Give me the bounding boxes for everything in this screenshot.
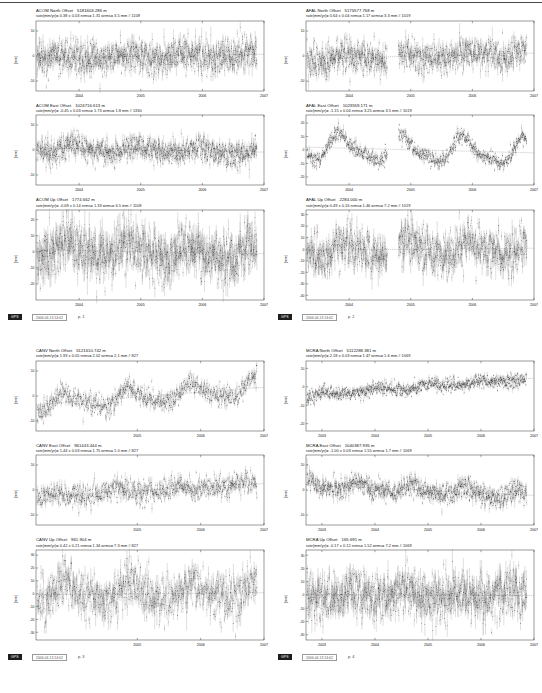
x-tick-label: 2007 [260,528,268,532]
x-tick-label: 2006 [197,434,205,438]
y-tick-label: 0 [303,489,305,493]
x-tick-label: 2006 [198,303,206,307]
x-tick-label: 2006 [468,188,476,192]
y-tick-label: -10 [300,162,305,166]
panel-title-text: ACOM East Offset [36,103,71,108]
data-points [37,27,257,88]
panel-offset-value: 961.904 m [71,537,91,542]
y-tick-label: -10 [300,514,305,518]
y-tick-label: 10 [31,464,35,468]
x-tick-label: 2006 [197,528,205,532]
plot-area-afal-east: (mm)20100-10-202004200520062007 [276,114,538,194]
plot-area-mcra-up: (mm)3020100-10-20-3020032004200520062007 [276,549,538,649]
x-tick-label: 2005 [424,643,432,647]
panel-offset-value: 961443.444 m [74,443,101,448]
y-tick-label: -10 [300,259,305,263]
panel-stats-afal-east: rate(mm/yr)= -1.15 ± 0.04 nrms= 3.25 wrm… [306,108,538,113]
timeseries-panel-mcra-up: MCRA Up Offset165.691 mrate(mm/yr)= -0.1… [276,537,538,649]
y-tick-label: 10 [301,29,305,33]
error-bars [307,459,527,516]
y-tick-label: 10 [31,369,35,373]
y-tick-label: 10 [31,234,35,238]
x-tick-label: 2005 [133,643,141,647]
timeseries-panel-canv-east: CANV East Offset961443.444 mrate(mm/yr)=… [6,443,268,535]
panel-title-text: MCRA East Offset [306,443,341,448]
panel-footer: GPS2006-04-13 14:02p. 2 [276,312,538,326]
panel-stats-canv-north: rate(mm/yr)= 1.93 ± 0.05 nrms= 2.02 wrms… [36,353,268,358]
error-bars [37,466,257,518]
panel-offset-value: 1023559.171 m [343,103,373,108]
y-tick-label: -20 [30,282,35,286]
plot-svg-canv-north: 100-10200520062007 [6,360,268,440]
panel-offset-value: 5175577.768 m [345,8,375,13]
plot-svg-mcra-north: 100-10-2020032004200520062007 [276,360,538,440]
x-tick-label: 2004 [345,188,353,192]
y-tick-label: 10 [301,135,305,139]
panel-stats-canv-east: rate(mm/yr)= 1.44 ± 0.03 nrms= 1.75 wrms… [36,448,268,453]
panel-stats-mcra-up: rate(mm/yr)= -0.17 ± 0.12 nrms= 1.52 wrm… [306,543,538,548]
x-tick-label: 2006 [468,94,476,98]
x-tick-label: 2005 [137,303,145,307]
y-axis-label: (mm) [14,255,18,263]
panel-offset-value: 165.691 m [342,537,362,542]
y-tick-label: 0 [303,593,305,597]
y-axis-label: (mm) [14,595,18,603]
y-tick-label: -20 [300,620,305,624]
y-axis-label: (mm) [14,150,18,158]
panel-offset-value: 5121610.742 m [76,348,106,353]
y-tick-label: 20 [301,567,305,571]
data-points [307,372,527,404]
data-series [37,361,257,425]
data-points [307,123,527,171]
y-tick-label: -20 [30,618,35,622]
plot-svg-afal-north: 100-102004200520062007 [276,20,538,100]
plot-area-canv-east: (mm)100-10200520062007 [6,454,268,534]
error-bars [307,549,527,641]
x-tick-label: 2006 [477,643,485,647]
page-number: p. 2 [348,315,354,319]
panel-title-text: MCRA Up Offset [306,537,338,542]
column-right-top: AFAL North Offset5175577.768 mrate(mm/yr… [276,8,538,326]
x-tick-label: 2004 [345,94,353,98]
page-number: p. 4 [348,655,354,659]
x-tick-label: 2005 [407,188,415,192]
x-tick-label: 2003 [318,643,326,647]
y-tick-label: -30 [30,630,35,634]
y-axis-label: (mm) [284,55,288,63]
panel-title-text: AFAL North Offset [306,8,341,13]
plot-svg-acom-up: 20100-10-202004200520062007 [6,209,268,309]
x-tick-label: 2007 [260,94,268,98]
plot-svg-acom-east: 100-102004200520062007 [6,114,268,194]
plot-frame [36,550,264,640]
gps-badge: GPS [278,314,292,320]
x-tick-label: 2007 [260,188,268,192]
panel-stats-acom-up: rate(mm/yr)= -0.69 ± 0.14 nrms= 1.33 wrm… [36,203,268,208]
panel-offset-value: 2284.000 m [340,197,363,202]
plot-area-afal-up: (mm)3020100-10-20-30-402004200520062007 [276,209,538,309]
data-series [307,119,527,173]
y-tick-label: 10 [31,124,35,128]
panel-stats-acom-east: rate(mm/yr)= -0.45 ± 0.03 nrms= 1.73 wrm… [36,108,268,113]
y-tick-label: -10 [300,403,305,407]
y-tick-label: 20 [301,224,305,228]
timestamp-label: 2006-04-13 14:02 [302,314,337,321]
x-tick-label: 2004 [75,303,83,307]
x-tick-label: 2007 [530,434,538,438]
timestamp-label: 2006-04-13 14:02 [32,654,67,661]
error-bars [37,128,257,179]
y-axis-label: (mm) [14,395,18,403]
data-series [37,209,257,304]
x-tick-label: 2004 [371,434,379,438]
x-tick-label: 2007 [530,643,538,647]
data-points [37,365,257,423]
data-points [307,32,527,82]
panel-offset-value: 1774.662 m [72,197,95,202]
panel-stats-mcra-east: rate(mm/yr)= -1.00 ± 0.03 nrms= 1.55 wrm… [306,448,538,453]
y-tick-label: -10 [30,605,35,609]
error-bars [37,209,257,304]
y-tick-label: 0 [33,250,35,254]
timeseries-panel-acom-up: ACOM Up Offset1774.662 mrate(mm/yr)= -0.… [6,197,268,309]
page-number: p. 1 [78,315,84,319]
timeseries-panel-mcra-east: MCRA East Offset1040387.935 mrate(mm/yr)… [276,443,538,535]
panel-offset-value: 1040387.935 m [345,443,375,448]
